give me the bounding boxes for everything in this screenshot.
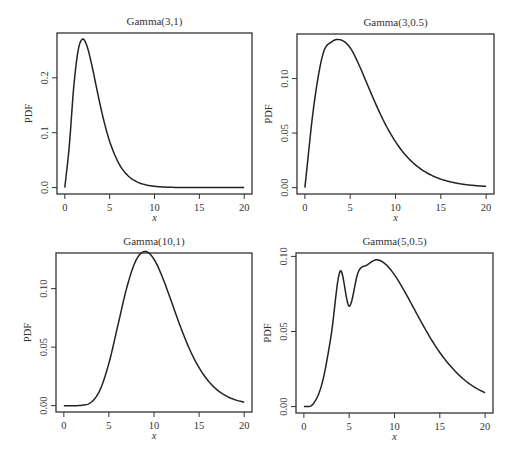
plot-frame <box>57 33 252 194</box>
x-tick-label: 5 <box>106 420 111 431</box>
x-tick-label: 15 <box>194 420 205 431</box>
x-tick-label: 20 <box>239 420 250 431</box>
panel-gamma-3-0.5: Gamma(3,0.5) 051015200.000.050.10 PDF x <box>263 16 494 223</box>
x-axis-label: x <box>151 430 157 441</box>
x-tick-label: 5 <box>107 202 112 213</box>
panel-gamma-3-1: Gamma(3,1) 051015200.00.10.2 PDF x <box>23 15 252 223</box>
x-tick-label: 15 <box>194 202 205 213</box>
y-axis-label: PDF <box>263 104 274 123</box>
x-tick-label: 0 <box>302 202 307 213</box>
plot-area: 051015200.00.10.2 <box>39 33 252 213</box>
x-tick-label: 15 <box>436 202 447 213</box>
plot-frame <box>56 253 252 412</box>
panel-title: Gamma(3,0.5) <box>363 16 427 29</box>
pdf-curve <box>304 260 485 407</box>
y-axis-label: PDF <box>23 104 34 123</box>
y-tick-label: 0.10 <box>278 247 289 265</box>
y-tick-label: 0.05 <box>278 322 289 340</box>
x-tick-label: 5 <box>348 202 353 213</box>
x-tick-label: 20 <box>481 202 492 213</box>
x-tick-label: 0 <box>62 202 67 213</box>
panel-gamma-5-0.5: Gamma(5,0.5) 051015200.000.050.10 PDF x <box>262 235 493 442</box>
plot-area: 051015200.000.050.10 <box>279 34 494 213</box>
plot-area: 051015200.000.050.10 <box>278 247 493 432</box>
x-tick-label: 5 <box>347 421 352 432</box>
y-tick-label: 0.05 <box>38 338 49 356</box>
x-tick-label: 20 <box>480 421 491 432</box>
panel-title: Gamma(5,0.5) <box>362 235 426 248</box>
figure: Gamma(3,1) 051015200.00.10.2 PDF x Gamma… <box>0 0 514 455</box>
y-tick-label: 0.2 <box>39 71 50 84</box>
panel-gamma-10-1: Gamma(10,1) 051015200.000.050.10 PDF x <box>22 235 252 441</box>
x-axis-label: x <box>151 212 157 223</box>
y-tick-label: 0.00 <box>38 396 49 414</box>
y-tick-label: 0.0 <box>39 181 50 194</box>
x-tick-label: 15 <box>435 421 446 432</box>
y-tick-label: 0.00 <box>278 397 289 415</box>
plot-frame <box>297 34 494 194</box>
y-tick-label: 0.05 <box>279 124 290 142</box>
y-tick-label: 0.1 <box>39 126 50 139</box>
panel-title: Gamma(10,1) <box>123 235 185 248</box>
x-tick-label: 20 <box>239 202 250 213</box>
panel-title: Gamma(3,1) <box>127 15 183 28</box>
y-axis-label: PDF <box>22 323 33 342</box>
plot-frame <box>296 253 493 413</box>
y-tick-label: 0.00 <box>279 178 290 196</box>
plot-area: 051015200.000.050.10 <box>38 251 252 431</box>
y-tick-label: 0.10 <box>279 69 290 87</box>
y-axis-label: PDF <box>262 323 273 342</box>
pdf-curve <box>64 251 244 405</box>
x-axis-label: x <box>391 431 397 442</box>
pdf-curve <box>305 40 486 188</box>
x-tick-label: 0 <box>301 421 306 432</box>
pdf-curve <box>65 39 244 188</box>
y-tick-label: 0.10 <box>38 279 49 297</box>
x-axis-label: x <box>392 212 398 223</box>
x-tick-label: 0 <box>61 420 66 431</box>
